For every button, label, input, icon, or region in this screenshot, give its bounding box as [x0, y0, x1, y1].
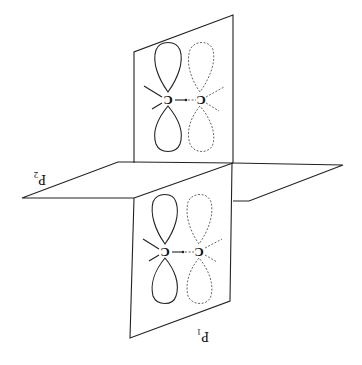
upper-right-atom: C — [196, 93, 205, 108]
lower-right-bond-1 — [205, 239, 222, 248]
label-p2-main: P — [38, 172, 46, 187]
label-p1: P1 — [197, 327, 209, 344]
upper-right-lobe-top — [188, 43, 213, 93]
upper-orbital-group: C C — [144, 43, 224, 152]
upper-left-bond-2 — [152, 103, 162, 109]
vertical-plane-lower — [130, 163, 232, 338]
lower-left-lobe-bottom — [152, 258, 177, 304]
svg-text:P2: P2 — [34, 170, 46, 187]
lower-orbital-group: C C — [143, 195, 222, 304]
lower-left-bond-2 — [149, 255, 159, 261]
label-p2-subscript: 2 — [34, 170, 39, 180]
upper-left-bond-1 — [144, 86, 162, 97]
lower-right-atom: C — [194, 245, 203, 260]
upper-left-atom: C — [163, 93, 172, 108]
lower-bond-dot — [182, 251, 185, 254]
horizontal-plane-right-outline — [233, 163, 343, 201]
horizontal-plane-p2 — [22, 162, 343, 201]
upper-left-lobe-top — [155, 43, 182, 93]
upper-bond-dot — [185, 99, 188, 102]
orbital-planes-diagram: C C C C P2 P1 — [0, 0, 362, 365]
lower-left-atom: C — [160, 245, 169, 260]
label-p1-subscript: 1 — [197, 327, 202, 337]
lower-left-lobe-top — [152, 195, 177, 245]
lower-right-lobe-top — [187, 195, 212, 245]
lower-left-bond-1 — [143, 239, 159, 249]
vertical-plane-lower-outline — [130, 163, 232, 338]
lower-right-lobe-bottom — [187, 258, 212, 304]
plane-intersection-front-edge — [134, 163, 233, 198]
upper-right-bond-2 — [206, 103, 219, 111]
upper-right-bond-1 — [206, 87, 224, 97]
lower-right-bond-2 — [205, 255, 217, 262]
horizontal-plane-back-edge — [134, 162, 233, 163]
upper-right-lobe-bottom — [188, 106, 213, 152]
label-p1-main: P — [201, 329, 209, 344]
svg-text:P1: P1 — [197, 327, 209, 344]
upper-left-lobe-bottom — [155, 106, 182, 152]
label-p2: P2 — [34, 170, 46, 187]
